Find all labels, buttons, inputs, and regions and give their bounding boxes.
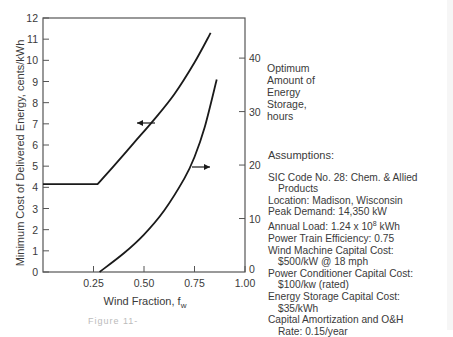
assumption-item: Power Conditioner Capital Cost:$100/kw (… bbox=[268, 268, 453, 291]
y-tick-label: 11 bbox=[27, 33, 38, 45]
right-axis-label-line: Amount of bbox=[267, 74, 315, 86]
figure-caption: Figure 11- bbox=[88, 316, 138, 326]
assumptions-panel: Assumptions: SIC Code No. 28: Chem. & Al… bbox=[268, 150, 453, 337]
y-tick-label: 0 bbox=[32, 266, 38, 278]
x-tick-label: 0.25 bbox=[83, 277, 104, 289]
assumption-line-continued: Rate: 0.15/year bbox=[268, 326, 453, 337]
assumption-line: Annual Load: 1.24 x 108 kWh bbox=[268, 218, 453, 233]
x-tick-label: 0.75 bbox=[184, 277, 205, 289]
right-axis-label-line: Optimum bbox=[267, 62, 315, 74]
assumptions-title: Assumptions: bbox=[268, 150, 453, 162]
cost-curve bbox=[43, 33, 211, 184]
assumption-line: Power Train Efficiency: 0.75 bbox=[268, 233, 453, 245]
y-tick-label: 6 bbox=[32, 139, 38, 151]
y-tick-label: 5 bbox=[32, 160, 38, 172]
y-tick-label: 10 bbox=[26, 54, 38, 66]
right-axis-label-line: Energy bbox=[267, 86, 315, 98]
y-tick-label: 4 bbox=[32, 181, 38, 193]
assumption-line: Capital Amortization and O&H bbox=[268, 314, 453, 326]
right-axis-label-line: Storage, bbox=[267, 98, 315, 110]
y-right-tick-label: 10 bbox=[249, 213, 261, 225]
x-tick-label: 0.50 bbox=[134, 277, 155, 289]
assumption-item: Location: Madison, Wisconsin bbox=[268, 195, 453, 207]
assumption-line: Peak Demand: 14,350 kW bbox=[268, 206, 453, 218]
assumption-item: Peak Demand: 14,350 kW bbox=[268, 206, 453, 218]
assumption-line: Wind Machine Capital Cost: bbox=[268, 245, 453, 257]
assumption-line: Power Conditioner Capital Cost: bbox=[268, 268, 453, 280]
assumption-item: Annual Load: 1.24 x 108 kWh bbox=[268, 218, 453, 233]
page-edge bbox=[447, 0, 453, 330]
assumption-line: Location: Madison, Wisconsin bbox=[268, 195, 453, 207]
assumption-item: Energy Storage Capital Cost:$35/kWh bbox=[268, 291, 453, 314]
assumption-item: Capital Amortization and O&HRate: 0.15/y… bbox=[268, 314, 453, 337]
y-right-tick-label: 30 bbox=[249, 106, 261, 118]
right-axis-label: OptimumAmount ofEnergyStorage,hours bbox=[267, 62, 315, 122]
right-axis-label-line: hours bbox=[267, 110, 315, 122]
y-tick-label: 2 bbox=[32, 224, 38, 236]
cost-arrow-left-head bbox=[137, 120, 143, 126]
assumption-line-continued: Products bbox=[268, 183, 453, 195]
x-axis-label: Wind Fraction, fw bbox=[104, 295, 187, 310]
y-tick-label: 3 bbox=[32, 203, 38, 215]
storage-arrow-right-head bbox=[204, 164, 210, 170]
y-tick-label: 1 bbox=[32, 245, 38, 257]
assumption-item: SIC Code No. 28: Chem. & AlliedProducts bbox=[268, 172, 453, 195]
assumption-line: Energy Storage Capital Cost: bbox=[268, 291, 453, 303]
assumption-item: Wind Machine Capital Cost:$500/kW @ 18 m… bbox=[268, 245, 453, 268]
y-tick-label: 9 bbox=[32, 76, 38, 88]
y-tick-label: 12 bbox=[26, 12, 38, 24]
y-tick-label: 8 bbox=[32, 97, 38, 109]
y-right-tick-label: 40 bbox=[249, 52, 261, 64]
assumption-line: SIC Code No. 28: Chem. & Allied bbox=[268, 172, 453, 184]
y-axis-label: Minimum Cost of Delivered Energy, cents/… bbox=[14, 40, 26, 267]
assumption-line-continued: $35/kWh bbox=[268, 303, 453, 315]
assumption-item: Power Train Efficiency: 0.75 bbox=[268, 233, 453, 245]
y-tick-label: 7 bbox=[32, 118, 38, 130]
y-right-tick-label: 20 bbox=[249, 159, 261, 171]
y-right-tick-label: 0 bbox=[249, 263, 255, 275]
assumption-line-continued: $500/kW @ 18 mph bbox=[268, 256, 453, 268]
x-tick-label: 1.00 bbox=[235, 277, 256, 289]
assumption-line-continued: $100/kw (rated) bbox=[268, 279, 453, 291]
exponent: 8 bbox=[373, 220, 377, 227]
storage-curve bbox=[100, 79, 217, 272]
